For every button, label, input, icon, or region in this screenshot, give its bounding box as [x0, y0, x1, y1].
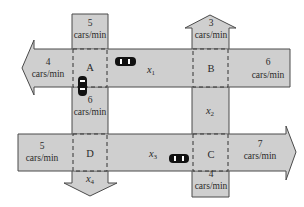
flow-into-a-top-value: 5 [88, 18, 93, 28]
flow-into-b-right-unit: cars/min [252, 70, 285, 80]
car-icon-top-road [115, 57, 136, 66]
intersection-d-label: D [86, 148, 94, 159]
traffic-network-diagram: A B C D 5 cars/min 4 cars/min 6 cars/min… [0, 0, 304, 207]
flow-out-b-top-value: 3 [209, 18, 214, 28]
flow-out-b-top-unit: cars/min [195, 30, 228, 40]
flow-into-c-bottom-unit: cars/min [195, 181, 228, 191]
flow-out-a-left-unit: cars/min [32, 69, 65, 79]
flow-out-a-left-value: 4 [46, 57, 51, 67]
flow-into-d-left-unit: cars/min [26, 153, 59, 163]
flow-into-a-top-unit: cars/min [74, 30, 107, 40]
road-horizontal-top [22, 40, 290, 95]
flow-a-to-d-unit: cars/min [74, 107, 107, 117]
intersection-a-label: A [86, 62, 94, 73]
flow-into-c-bottom-value: 4 [209, 169, 214, 179]
flow-out-c-right-value: 7 [258, 139, 263, 149]
intersection-c-label: C [207, 149, 214, 160]
flow-out-c-right-unit: cars/min [244, 151, 277, 161]
car-icon-vertical-a [78, 76, 87, 96]
flow-into-d-left-value: 5 [40, 141, 45, 151]
intersection-b-label: B [207, 63, 214, 74]
car-icon-bottom-road [169, 154, 189, 163]
flow-a-to-d-value: 6 [88, 95, 93, 105]
flow-into-b-right-value: 6 [266, 57, 271, 67]
